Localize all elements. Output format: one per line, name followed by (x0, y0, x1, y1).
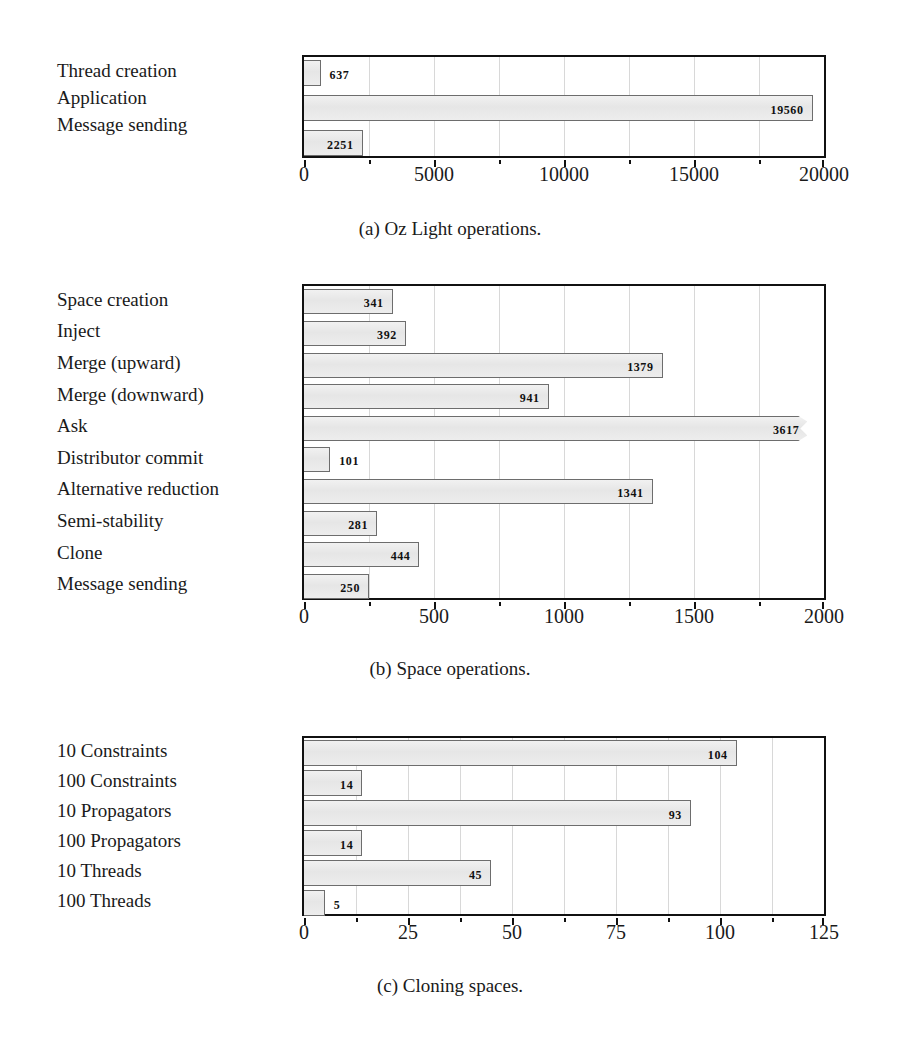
axis-tick-label: 2000 (804, 606, 844, 626)
category-label: 100 Constraints (57, 771, 177, 790)
axis-tick-label: 1500 (674, 606, 714, 626)
axis-tick-minor (356, 918, 358, 922)
bar: 2251 (304, 130, 363, 156)
bar-value-label: 19560 (771, 103, 804, 118)
bar-value-label: 45 (469, 868, 482, 883)
axis-tick-label: 100 (705, 922, 735, 942)
bar: 14 (304, 770, 362, 796)
category-label: Thread creation (57, 61, 177, 80)
bar: 941 (304, 384, 549, 409)
category-label: 10 Threads (57, 861, 142, 880)
axis-tick-label: 15000 (669, 164, 719, 184)
bar-value-label: 444 (391, 549, 411, 564)
bar-value-label: 341 (364, 296, 384, 311)
axis-tick-minor (460, 918, 462, 922)
axis-tick-label: 75 (606, 922, 626, 942)
figure-page: { "page": { "background": "#ffffff", "ba… (0, 0, 900, 1057)
axis-tick-label: 5000 (414, 164, 454, 184)
category-label: Alternative reduction (57, 479, 219, 498)
bar: 3617 (304, 416, 807, 441)
gridline (772, 738, 773, 914)
category-label: Merge (upward) (57, 353, 181, 372)
axis-tick-label: 1000 (544, 606, 584, 626)
bar-value-label: 101 (339, 454, 359, 469)
figure-caption: (b) Space operations. (0, 658, 900, 680)
bar-value-label: 1341 (617, 486, 643, 501)
category-label: Message sending (57, 574, 187, 593)
plot-area: 104149314455 (302, 736, 826, 916)
bar: 93 (304, 800, 691, 826)
category-label: Semi-stability (57, 511, 164, 530)
bar-value-label: 104 (708, 748, 728, 763)
bar-value-label: 1379 (627, 360, 653, 375)
axis-tick-minor (629, 602, 631, 606)
bar-value-label: 14 (340, 778, 353, 793)
bar: 637 (304, 60, 321, 86)
bar-value-label: 941 (520, 391, 540, 406)
axis-tick-minor (499, 160, 501, 164)
axis-tick-minor (629, 160, 631, 164)
bar-value-label: 250 (340, 581, 360, 596)
gridline (499, 286, 500, 598)
category-label: Clone (57, 543, 102, 562)
bar: 45 (304, 860, 491, 886)
plot-inner: 104149314455 (304, 738, 824, 914)
bar: 1379 (304, 353, 663, 378)
bar-value-label: 2251 (327, 138, 353, 153)
bar: 444 (304, 542, 419, 567)
plot-inner: 637195602251 (304, 57, 824, 156)
bar: 281 (304, 511, 377, 536)
gridline (434, 286, 435, 598)
plot-inner: 341392137994136171011341281444250 (304, 286, 824, 598)
category-label: Space creation (57, 290, 168, 309)
gridline (759, 286, 760, 598)
figure-caption: (a) Oz Light operations. (0, 218, 900, 240)
category-label: Ask (57, 416, 88, 435)
axis-tick-minor (759, 602, 761, 606)
figure-caption: (c) Cloning spaces. (0, 975, 900, 997)
bar-value-label: 392 (377, 328, 397, 343)
bar-value-label: 637 (330, 68, 350, 83)
axis-tick-minor (499, 602, 501, 606)
category-label: Distributor commit (57, 448, 203, 467)
bar: 14 (304, 830, 362, 856)
axis-tick-label: 0 (299, 606, 309, 626)
axis-tick-label: 20000 (799, 164, 849, 184)
axis-tick-label: 25 (398, 922, 418, 942)
axis-tick-label: 125 (809, 922, 839, 942)
axis-break-zigzag-icon (797, 417, 813, 442)
bar: 5 (304, 890, 325, 916)
bar: 250 (304, 574, 369, 599)
axis-tick-minor (772, 918, 774, 922)
axis-tick-label: 0 (299, 922, 309, 942)
category-label: Inject (57, 321, 100, 340)
gridline (694, 286, 695, 598)
axis-tick-minor (564, 918, 566, 922)
category-label: Message sending (57, 115, 187, 134)
axis-tick-label: 500 (419, 606, 449, 626)
bar-value-label: 93 (669, 808, 682, 823)
bar: 104 (304, 740, 737, 766)
axis-tick-minor (759, 160, 761, 164)
bar: 392 (304, 321, 406, 346)
category-label: 10 Constraints (57, 741, 167, 760)
axis-tick-label: 50 (502, 922, 522, 942)
axis-tick-minor (668, 918, 670, 922)
bar: 101 (304, 447, 330, 472)
category-label: 100 Propagators (57, 831, 181, 850)
axis-tick-label: 0 (299, 164, 309, 184)
bar-value-label: 3617 (773, 423, 799, 438)
bar-value-label: 14 (340, 838, 353, 853)
axis-tick-minor (369, 602, 371, 606)
bar-value-label: 281 (348, 518, 368, 533)
plot-area: 341392137994136171011341281444250 (302, 284, 826, 600)
gridline (564, 286, 565, 598)
bar-break-marker (797, 417, 813, 446)
category-label: Merge (downward) (57, 385, 204, 404)
bar-value-label: 5 (334, 898, 341, 913)
bar: 1341 (304, 479, 653, 504)
axis-tick-minor (369, 160, 371, 164)
category-label: 10 Propagators (57, 801, 172, 820)
category-label: Application (57, 88, 147, 107)
gridline (629, 286, 630, 598)
